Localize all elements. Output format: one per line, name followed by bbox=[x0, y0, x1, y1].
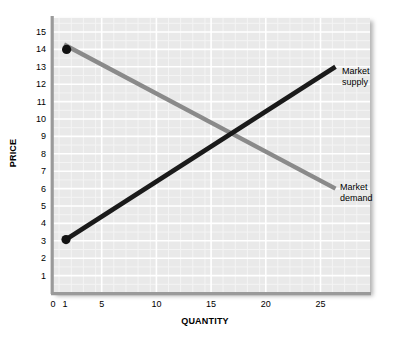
y-tick-label: 7 bbox=[26, 166, 46, 176]
x-tick-label: 5 bbox=[92, 299, 112, 309]
y-tick-label: 5 bbox=[26, 201, 46, 211]
series-label-market-demand: Market demand bbox=[340, 182, 373, 203]
y-tick-label: 12 bbox=[26, 79, 46, 89]
y-axis-title: PRICE bbox=[8, 123, 18, 183]
x-axis-title: QUANTITY bbox=[0, 316, 410, 326]
y-tick-label: 4 bbox=[26, 218, 46, 228]
y-tick-label: 10 bbox=[26, 114, 46, 124]
series-label-market-supply: Market supply bbox=[342, 66, 370, 87]
y-tick-label: 6 bbox=[26, 184, 46, 194]
y-tick-label: 2 bbox=[26, 253, 46, 263]
y-tick-label: 3 bbox=[26, 236, 46, 246]
y-tick-label: 9 bbox=[26, 131, 46, 141]
x-tick-label: 20 bbox=[256, 299, 276, 309]
y-tick-label: 13 bbox=[26, 62, 46, 72]
plot-area bbox=[53, 18, 370, 293]
x-tick-label: 15 bbox=[201, 299, 221, 309]
market-equilibrium-chart: 15 14 13 12 11 10 9 8 7 6 5 4 3 2 1 0 1 … bbox=[0, 0, 410, 342]
y-tick-label: 1 bbox=[26, 271, 46, 281]
chart-canvas bbox=[0, 0, 410, 342]
y-tick-label: 14 bbox=[26, 44, 46, 54]
y-tick-label: 15 bbox=[26, 27, 46, 37]
y-tick-label: 8 bbox=[26, 149, 46, 159]
x-tick-label: 1 bbox=[55, 299, 75, 309]
y-tick-label: 11 bbox=[26, 97, 46, 107]
x-tick-label: 25 bbox=[311, 299, 331, 309]
x-tick-label: 10 bbox=[146, 299, 166, 309]
